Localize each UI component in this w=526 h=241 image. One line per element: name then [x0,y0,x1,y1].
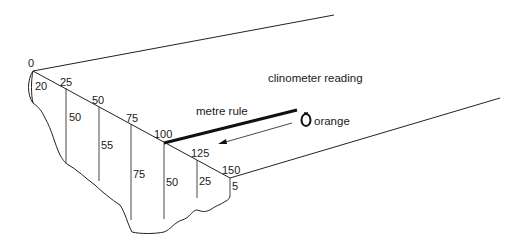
marker-100: 100 [154,128,172,140]
orange-icon [302,114,311,126]
depth-reading-0: 20 [35,80,47,92]
depth-reading-25: 50 [69,111,81,123]
marker-125: 125 [191,147,209,159]
marker-25: 25 [60,76,72,88]
far-bank-top-line [33,15,334,71]
near-bank-top-line [230,98,500,178]
depth-reading-125: 25 [199,175,211,187]
marker-50: 50 [92,94,104,106]
depth-reading-75: 75 [133,168,145,180]
clinometer-label: clinometer reading [268,72,363,84]
flow-arrow-head-icon [218,139,227,144]
marker-75: 75 [126,112,138,124]
orange-label: orange [314,115,350,127]
depth-reading-50: 55 [101,139,113,151]
marker-0: 0 [28,57,34,69]
metre-rule-label: metre rule [196,105,248,117]
depth-reading-100: 50 [166,176,178,188]
depth-reading-150: 5 [232,180,238,192]
marker-150: 150 [222,164,240,176]
river-cross-section-diagram: 0 25 50 75 100 125 150 20 50 55 75 50 25… [0,0,526,241]
left-bank-edge [29,71,34,103]
